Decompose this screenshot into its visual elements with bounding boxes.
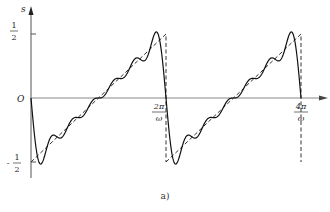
svg-text:1: 1 — [14, 153, 19, 162]
svg-text:2: 2 — [14, 165, 19, 174]
y-tick-label-neg-half: - 1 2 — [7, 153, 21, 174]
y-axis-arrow-icon — [29, 6, 34, 15]
axis-labels: s 1 2 O - 1 2 2π ω 4π ω — [7, 4, 308, 174]
x-tick-label-2pi-omega: 2π ω — [152, 102, 166, 123]
figure-caption: a) — [0, 191, 330, 201]
axes — [29, 6, 329, 178]
x-axis-arrow-icon — [319, 96, 328, 101]
origin-label: O — [17, 94, 25, 104]
y-axis-label: s — [21, 4, 26, 14]
svg-text:-: - — [7, 159, 10, 168]
y-tick-label-half: 1 2 — [10, 21, 18, 42]
sawtooth-fourier-chart: s 1 2 O - 1 2 2π ω 4π ω — [0, 0, 330, 212]
plot-area: s 1 2 O - 1 2 2π ω 4π ω — [0, 0, 330, 212]
svg-text:2: 2 — [11, 33, 16, 42]
svg-text:ω: ω — [156, 114, 163, 123]
svg-text:2π: 2π — [153, 102, 165, 111]
svg-text:1: 1 — [11, 21, 16, 30]
